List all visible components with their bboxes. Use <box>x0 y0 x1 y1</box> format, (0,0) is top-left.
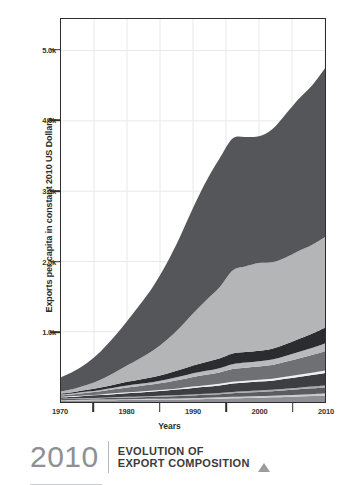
y-axis-label-wrap: Exports per capita in constant 2010 US D… <box>14 60 34 360</box>
chart-region: 1.0k2.0k3.0k4.0k5.0k 1970198019902000201… <box>0 0 339 432</box>
footer-year: 2010 <box>30 442 99 472</box>
x-tick-mark-minor <box>92 403 94 412</box>
y-tick-mark <box>50 49 60 51</box>
stacked-area-svg <box>61 19 325 402</box>
x-tick-label: 1990 <box>185 407 201 416</box>
y-axis-label: Exports per capita in constant 2010 US D… <box>44 100 54 330</box>
plot-area <box>60 18 326 403</box>
x-tick-label: 1970 <box>52 407 68 416</box>
x-tick-mark-minor <box>159 403 161 412</box>
chart-page: 1.0k2.0k3.0k4.0k5.0k 1970198019902000201… <box>0 0 339 485</box>
x-tick-label: 2000 <box>252 407 268 416</box>
chart-footer: 2010 EVOLUTION OF EXPORT COMPOSITION <box>0 441 339 485</box>
footer-inner: 2010 EVOLUTION OF EXPORT COMPOSITION <box>30 441 270 473</box>
x-axis-label: Years <box>0 421 339 431</box>
x-tick-mark-minor <box>292 403 294 412</box>
footer-title-line-1: EVOLUTION OF <box>118 445 250 458</box>
footer-title-block: EVOLUTION OF EXPORT COMPOSITION <box>118 445 250 470</box>
footer-divider <box>108 441 109 473</box>
x-tick-label: 2010 <box>318 407 334 416</box>
triangle-up-icon <box>258 463 270 472</box>
y-tick-mark <box>50 332 60 334</box>
x-tick-mark-minor <box>225 403 227 412</box>
footer-title-line-2: EXPORT COMPOSITION <box>118 457 250 470</box>
x-tick-label: 1980 <box>119 407 135 416</box>
